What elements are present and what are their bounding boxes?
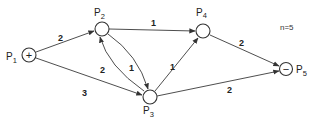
node-p2: P2 (94, 7, 109, 36)
node-p4-circle (196, 24, 210, 38)
edge-p4-p5 (210, 35, 279, 66)
weight-p1-p2: 2 (58, 33, 63, 43)
weight-p2-p3: 1 (129, 63, 134, 73)
weight-p2-p4: 1 (151, 18, 156, 28)
node-p3-circle (143, 90, 157, 104)
node-p5-label: P5 (296, 64, 307, 78)
node-p2-label: P2 (94, 7, 105, 21)
weight-p3-p4: 1 (170, 62, 175, 72)
plus-icon: + (26, 49, 32, 61)
edge-p3-p5 (157, 71, 279, 96)
edge-p1-p2 (36, 31, 94, 52)
weight-p4-p5: 2 (239, 38, 244, 48)
weight-p3-p5: 2 (227, 85, 232, 95)
node-p4: P4 (196, 7, 210, 38)
flow-network-diagram: 2 3 1 2 1 1 2 2 + P1 P2 P3 P4 − P5 n=5 (0, 0, 315, 132)
node-p2-circle (95, 22, 109, 36)
node-count-note: n=5 (280, 23, 294, 32)
edge-p3-p4 (155, 38, 198, 91)
edge-p2-p4 (109, 29, 195, 31)
node-p1-label: P1 (6, 51, 17, 65)
edge-p2-p3 (108, 34, 148, 89)
node-p1: + P1 (6, 48, 36, 65)
weight-p3-p2: 2 (100, 65, 105, 75)
node-p4-label: P4 (196, 7, 207, 20)
weight-p1-p3: 3 (82, 88, 87, 98)
minus-icon: − (283, 63, 289, 75)
node-p3: P3 (143, 90, 157, 119)
node-p5: − P5 (280, 63, 307, 79)
node-p3-label: P3 (143, 105, 154, 119)
